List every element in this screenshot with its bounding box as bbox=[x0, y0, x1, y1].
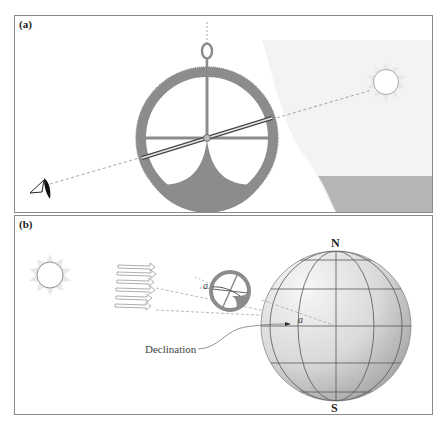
diagram-canvas: a a Declination N S bbox=[0, 0, 443, 427]
eye-icon bbox=[30, 178, 50, 199]
declination-label: Declination bbox=[145, 343, 197, 355]
small-astrolabe bbox=[211, 272, 249, 310]
angle-label-a-small: a bbox=[203, 280, 208, 291]
horizon-sea bbox=[318, 176, 432, 212]
suspension-ring bbox=[202, 44, 212, 59]
south-label: S bbox=[331, 401, 338, 415]
sun-icon-b bbox=[29, 254, 71, 296]
pivot-pin bbox=[204, 135, 211, 142]
sun-rays-arrows bbox=[115, 263, 156, 310]
globe bbox=[261, 251, 411, 401]
north-label: N bbox=[331, 236, 340, 250]
angle-label-a-globe: a bbox=[298, 314, 303, 325]
astrolabe bbox=[136, 22, 278, 213]
